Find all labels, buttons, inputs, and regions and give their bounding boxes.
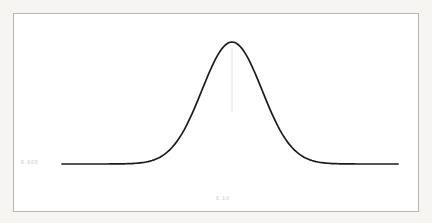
chart-screenshot: 0.000 0.10 [0, 0, 432, 223]
y-axis-tick-label: 0.000 [21, 159, 39, 165]
x-axis-tick-label: 0.10 [216, 195, 230, 201]
plot-area [13, 13, 419, 212]
